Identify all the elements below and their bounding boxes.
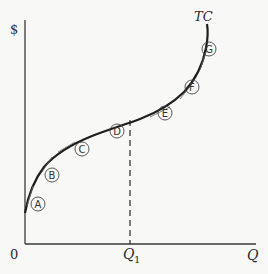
svg-text:A: A (35, 199, 42, 210)
point-a: A (31, 197, 45, 211)
tangent-c (58, 142, 75, 152)
q1-subscript: 1 (134, 254, 140, 265)
point-b: B (45, 168, 59, 182)
tc-label: TC (194, 9, 213, 24)
point-g: G (202, 42, 216, 56)
point-c: C (75, 142, 89, 156)
tangent-a (27, 186, 33, 206)
svg-text:F: F (189, 82, 195, 93)
y-axis-label: $ (10, 22, 18, 37)
svg-text:E: E (162, 108, 168, 119)
svg-text:C: C (79, 144, 86, 155)
svg-text:B: B (49, 170, 56, 181)
tc-diagram: $ 0 Q TC Q 1 A B C D E F G (0, 0, 268, 274)
point-e: E (158, 106, 172, 120)
svg-text:D: D (113, 126, 121, 137)
x-axis-label: Q (247, 247, 259, 263)
point-d: D (110, 124, 124, 138)
svg-text:G: G (205, 44, 213, 55)
origin-label: 0 (10, 247, 18, 262)
tc-curve (25, 24, 208, 213)
